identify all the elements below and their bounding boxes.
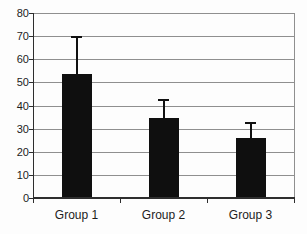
- y-tick-label: 20: [0, 146, 29, 158]
- error-bar-stem: [76, 36, 78, 74]
- y-tick-label: 50: [0, 76, 29, 88]
- x-axis-tick: [120, 199, 121, 203]
- y-tick-label: 10: [0, 169, 29, 181]
- x-axis-line: [33, 197, 295, 199]
- plot-border-right: [294, 13, 295, 198]
- bar-group-3: [236, 138, 266, 197]
- error-bar-stem: [163, 99, 165, 119]
- error-bar-cap: [71, 36, 82, 38]
- y-tick-label: 70: [0, 30, 29, 42]
- error-bar-stem: [250, 122, 252, 138]
- error-bar-cap: [158, 99, 169, 101]
- error-bar-cap: [245, 122, 256, 124]
- y-axis-line: [33, 13, 34, 199]
- gridline: [33, 13, 294, 14]
- y-tick-label: 30: [0, 123, 29, 135]
- x-axis-tick: [294, 199, 295, 203]
- x-axis-tick: [33, 199, 34, 203]
- x-axis-tick: [207, 199, 208, 203]
- x-tick-label: Group 1: [35, 208, 119, 222]
- bar-group-2: [149, 118, 179, 197]
- bar-chart: 01020304050607080 Group 1Group 2Group 3: [0, 0, 307, 234]
- y-tick-label: 80: [0, 7, 29, 19]
- x-tick-label: Group 2: [122, 208, 206, 222]
- y-tick-label: 60: [0, 53, 29, 65]
- y-tick-label: 40: [0, 100, 29, 112]
- bar-group-1: [62, 74, 92, 197]
- x-tick-label: Group 3: [209, 208, 293, 222]
- gridline: [33, 59, 294, 60]
- y-tick-label: 0: [0, 192, 29, 204]
